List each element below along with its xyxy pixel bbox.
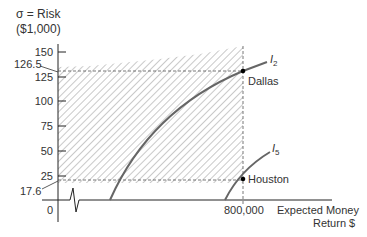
hatched-feasible-region xyxy=(58,46,243,183)
houston-point xyxy=(241,177,246,182)
y-axis-title-line1: σ = Risk xyxy=(16,8,60,20)
dallas-point xyxy=(241,69,246,74)
i2-label: I2 xyxy=(270,53,278,70)
annotation-126-5: 126.5 xyxy=(14,58,42,70)
y-tick-125: 125 xyxy=(20,71,53,83)
y-axis-title-line2: ($1,000) xyxy=(16,23,61,35)
i5-label: I5 xyxy=(272,142,280,159)
y-tick-100: 100 xyxy=(20,95,53,107)
y-tick-25: 25 xyxy=(20,170,53,182)
x-axis-title-line1: Expected Money xyxy=(277,204,359,216)
x-tick-800000: 800,000 xyxy=(224,204,264,216)
houston-label: Houston xyxy=(248,173,289,185)
dallas-label: Dallas xyxy=(248,75,279,87)
y-tick-150: 150 xyxy=(20,46,53,58)
x-axis-title-line2: Return $ xyxy=(313,217,355,229)
y-tick-50: 50 xyxy=(20,145,53,157)
y-tick-75: 75 xyxy=(20,120,53,132)
x-origin-zero: 0 xyxy=(47,204,53,216)
annotation-17-6: 17.6 xyxy=(20,185,41,197)
